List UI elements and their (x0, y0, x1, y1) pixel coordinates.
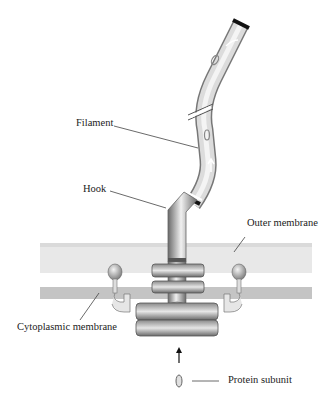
filament (188, 20, 249, 204)
export-arrow (176, 347, 182, 363)
protein-subunit-icon (176, 375, 182, 387)
label-hook: Hook (83, 183, 106, 194)
l-ring (152, 264, 204, 277)
label-protein-subunit: Protein subunit (228, 374, 292, 385)
label-outer-membrane: Outer membrane (247, 217, 318, 228)
label-cytoplasmic-membrane: Cytoplasmic membrane (17, 321, 117, 332)
label-filament: Filament (76, 117, 113, 128)
diagram-canvas (0, 0, 336, 408)
flagellum-diagram: Filament Hook Outer membrane Cytoplasmic… (0, 0, 336, 408)
p-ring (152, 281, 204, 293)
c-ring (136, 303, 218, 336)
